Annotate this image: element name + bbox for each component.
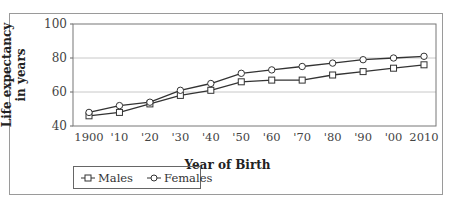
x-tick-label: '40 bbox=[202, 130, 220, 144]
data-point-square bbox=[116, 109, 122, 115]
legend-item-males: Males bbox=[81, 171, 133, 185]
x-tick-label: '20 bbox=[141, 130, 159, 144]
series-males bbox=[86, 62, 427, 119]
data-point-circle bbox=[177, 87, 183, 93]
legend: Males Females bbox=[73, 166, 201, 189]
x-tick-label: '80 bbox=[324, 130, 342, 144]
data-point-circle bbox=[238, 70, 244, 76]
series-females bbox=[86, 53, 427, 116]
data-point-circle bbox=[269, 67, 275, 73]
data-point-square bbox=[360, 69, 366, 75]
data-point-circle bbox=[421, 53, 427, 59]
x-tick-label: '70 bbox=[293, 130, 311, 144]
legend-label-females: Females bbox=[164, 171, 212, 185]
y-tick-label: 60 bbox=[52, 85, 67, 99]
x-axis-label: Year of Birth bbox=[0, 158, 455, 172]
legend-item-females: Females bbox=[147, 171, 212, 185]
data-series bbox=[86, 53, 427, 119]
y-tick-labels: 406080100 bbox=[44, 17, 67, 133]
data-point-circle bbox=[116, 102, 122, 108]
data-point-square bbox=[269, 77, 275, 83]
x-tick-label: '90 bbox=[354, 130, 372, 144]
circle-marker-icon bbox=[147, 173, 161, 183]
y-tick-label: 40 bbox=[52, 119, 67, 133]
square-marker-icon bbox=[81, 173, 95, 183]
y-axis-label-line-1: Life expectancy bbox=[0, 23, 14, 127]
data-point-square bbox=[391, 65, 397, 71]
line-chart: 406080100 1900'10'20'30'40'50'60'70'80'9… bbox=[0, 0, 455, 205]
data-point-square bbox=[299, 77, 305, 83]
data-point-circle bbox=[390, 55, 396, 61]
data-point-square bbox=[238, 79, 244, 85]
legend-label-males: Males bbox=[98, 171, 133, 185]
data-point-circle bbox=[360, 57, 366, 63]
series-line bbox=[89, 56, 424, 112]
data-point-square bbox=[330, 72, 336, 78]
x-tick-labels: 1900'10'20'30'40'50'60'70'80'90'002010 bbox=[74, 130, 438, 144]
x-tick-label: 1900 bbox=[74, 130, 103, 144]
y-axis-label: Life expectancy in years bbox=[0, 23, 28, 127]
x-tick-label: '50 bbox=[232, 130, 250, 144]
x-tick-label: '00 bbox=[385, 130, 403, 144]
x-tick-label: '30 bbox=[171, 130, 189, 144]
x-tick-label: 2010 bbox=[409, 130, 438, 144]
y-tick-label: 80 bbox=[52, 51, 67, 65]
x-tick-label: '60 bbox=[263, 130, 281, 144]
data-point-square bbox=[208, 87, 214, 93]
data-point-square bbox=[421, 62, 427, 68]
data-point-circle bbox=[208, 80, 214, 86]
data-point-circle bbox=[86, 109, 92, 115]
data-point-circle bbox=[299, 63, 305, 69]
data-point-circle bbox=[147, 99, 153, 105]
y-tick-label: 100 bbox=[44, 17, 67, 31]
y-axis-label-line-2: in years bbox=[14, 23, 28, 127]
gridlines bbox=[73, 58, 436, 92]
series-line bbox=[89, 65, 424, 116]
x-tick-label: '10 bbox=[111, 130, 129, 144]
data-point-circle bbox=[329, 60, 335, 66]
